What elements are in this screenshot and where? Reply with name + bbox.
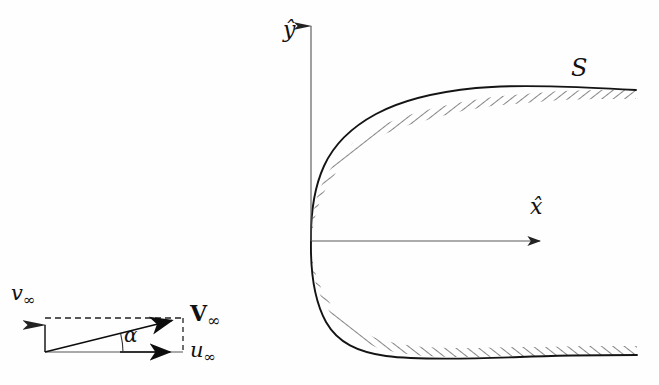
alpha-angle-label: α: [124, 325, 138, 345]
V-infinity-vector: [45, 321, 172, 353]
surface-label-S: S: [571, 56, 587, 80]
u-infinity-symbol: u: [190, 338, 204, 362]
V-infinity-subscript: ∞: [207, 311, 220, 330]
lower-surface-curve: [311, 241, 637, 359]
surface-hatching-lower: [295, 230, 655, 370]
V-infinity-symbol: V: [190, 300, 207, 326]
figure-root: ŷ x̂ S v∞ u∞ V∞ α: [0, 0, 659, 385]
diagram-canvas: [0, 0, 659, 385]
u-infinity-label: u∞: [190, 340, 216, 365]
V-infinity-label: V∞: [190, 302, 220, 329]
v-infinity-label: v∞: [11, 283, 35, 308]
v-infinity-subscript: ∞: [23, 291, 36, 309]
upper-surface-curve: [311, 86, 636, 241]
alpha-angle-arc: [121, 334, 123, 352]
v-infinity-symbol: v: [11, 281, 23, 305]
u-infinity-subscript: ∞: [204, 348, 217, 366]
surface-hatching-upper: [295, 80, 655, 255]
x-hat-axis-label: x̂: [530, 196, 542, 218]
y-hat-axis-label: ŷ: [283, 19, 295, 41]
